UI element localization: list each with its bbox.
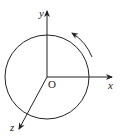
- x-axis-label: x: [107, 79, 113, 91]
- diagram-canvas: y x z O: [0, 0, 120, 140]
- z-axis-label: z: [9, 121, 15, 133]
- z-axis: [19, 77, 47, 129]
- origin-label: O: [48, 78, 56, 90]
- y-axis-label: y: [38, 7, 44, 19]
